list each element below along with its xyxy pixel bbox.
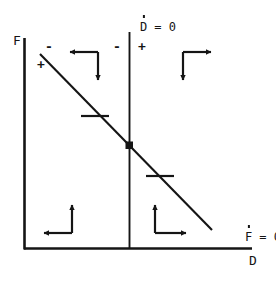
arrow-pair-upper-left [70, 52, 98, 80]
sign-right-of-vertical-nullcline: + [138, 40, 146, 53]
dot-accent-icon [142, 15, 144, 17]
steady-state-point [126, 142, 134, 150]
f-dot-variable-letter: F [245, 230, 252, 244]
sign-above-sloped-nullcline: - [45, 40, 53, 53]
arrow-pair-upper-right [183, 52, 211, 80]
arrow-pair-lower-right [155, 205, 186, 233]
sign-left-of-vertical-nullcline: - [113, 40, 121, 53]
d-axis-label: D [249, 254, 257, 267]
f-dot-variable: F [245, 231, 252, 243]
phase-plane-diagram: F D D = 0 F = 0 - + - + [0, 0, 276, 284]
arrow-pair-lower-left [44, 205, 72, 233]
dot-accent-icon [247, 225, 249, 227]
f-dot-nullcline-label: F = 0 [216, 219, 276, 255]
d-dot-variable: D [140, 21, 147, 33]
sign-below-sloped-nullcline: + [37, 58, 45, 71]
d-dot-equation-rest: = 0 [147, 20, 176, 34]
d-dot-variable-letter: D [140, 20, 147, 34]
f-dot-equation-rest: = 0 [252, 230, 276, 244]
f-axis-label: F [13, 34, 21, 47]
